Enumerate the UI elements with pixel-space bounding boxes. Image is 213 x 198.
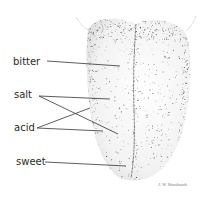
stipple-dot: [189, 135, 190, 136]
stipple-dot: [99, 27, 100, 28]
stipple-dot: [136, 22, 137, 23]
stipple-dot: [182, 148, 183, 149]
stipple-dot: [132, 49, 133, 50]
stipple-dot: [191, 170, 192, 171]
stipple-dot: [89, 31, 90, 32]
stipple-dot: [155, 23, 156, 24]
stipple-dot: [94, 36, 95, 37]
stipple-dot: [109, 81, 110, 82]
stipple-dot: [152, 49, 153, 50]
stipple-dot: [182, 155, 183, 156]
stipple-dot: [153, 39, 154, 40]
stipple-dot: [88, 68, 89, 69]
stipple-dot: [146, 117, 147, 118]
stipple-dot: [184, 168, 185, 169]
stipple-dot: [185, 71, 186, 72]
stipple-dot: [177, 168, 178, 169]
stipple-dot: [102, 69, 103, 70]
stipple-dot: [153, 54, 154, 55]
stipple-dot: [187, 101, 188, 102]
stipple-dot: [108, 122, 109, 123]
stipple-dot: [102, 121, 103, 122]
stipple-dot: [86, 177, 87, 178]
stipple-dot: [87, 118, 88, 119]
stipple-dot: [153, 37, 154, 38]
stipple-dot: [182, 84, 183, 85]
stipple-dot: [105, 68, 106, 69]
stipple-dot: [184, 152, 185, 153]
stipple-dot: [148, 64, 149, 65]
stipple-dot: [116, 151, 117, 152]
stipple-dot: [186, 116, 187, 117]
stipple-dot: [187, 149, 188, 150]
stipple-dot: [92, 88, 93, 89]
stipple-dot: [148, 34, 149, 35]
stipple-dot: [87, 30, 88, 31]
stipple-dot: [97, 103, 98, 104]
stipple-dot: [105, 19, 106, 20]
stipple-dot: [166, 148, 167, 149]
stipple-dot: [98, 144, 99, 145]
stipple-dot: [190, 18, 191, 19]
stipple-dot: [119, 23, 120, 24]
stipple-dot: [183, 92, 184, 93]
stipple-dot: [163, 42, 164, 43]
stipple-dot: [128, 29, 129, 30]
stipple-dot: [131, 28, 132, 29]
stipple-dot: [139, 36, 140, 37]
stipple-dot: [108, 60, 109, 61]
stipple-dot: [158, 128, 159, 129]
stipple-dot: [123, 140, 124, 141]
stipple-dot: [137, 88, 138, 89]
stipple-dot: [93, 34, 94, 35]
stipple-dot: [96, 128, 97, 129]
tongue-diagram: bitter salt acid sweet J. W. Wendreath: [0, 0, 213, 198]
stipple-dot: [114, 179, 115, 180]
stipple-dot: [169, 16, 170, 17]
stipple-dot: [158, 23, 159, 24]
stipple-dot: [149, 31, 150, 32]
stipple-dot: [90, 184, 91, 185]
stipple-dot: [159, 40, 160, 41]
stipple-dot: [190, 143, 191, 144]
stipple-dot: [169, 19, 170, 20]
stipple-dot: [129, 20, 130, 21]
stipple-dot: [134, 167, 135, 168]
stipple-dot: [183, 117, 184, 118]
stipple-dot: [175, 159, 176, 160]
stipple-dot: [137, 114, 138, 115]
stipple-dot: [118, 70, 119, 71]
stipple-dot: [187, 119, 188, 120]
stipple-dot: [126, 36, 127, 37]
stipple-dot: [84, 85, 85, 86]
stipple-dot: [84, 38, 85, 39]
stipple-dot: [133, 135, 134, 136]
stipple-dot: [185, 26, 186, 27]
stipple-dot: [132, 16, 133, 17]
stipple-dot: [87, 153, 88, 154]
stipple-dot: [182, 156, 183, 157]
stipple-dot: [88, 81, 89, 82]
stipple-dot: [179, 94, 180, 95]
stipple-dot: [100, 36, 101, 37]
stipple-dot: [136, 177, 137, 178]
stipple-dot: [97, 92, 98, 93]
stipple-dot: [85, 52, 86, 53]
stipple-dot: [189, 130, 190, 131]
stipple-dot: [119, 27, 120, 28]
stipple-dot: [181, 136, 182, 137]
stipple-dot: [144, 19, 145, 20]
stipple-dot: [111, 91, 112, 92]
stipple-dot: [185, 50, 186, 51]
label-acid: acid: [14, 122, 35, 133]
stipple-dot: [84, 64, 85, 65]
stipple-dot: [146, 17, 147, 18]
stipple-dot: [153, 89, 154, 90]
stipple-dot: [132, 42, 133, 43]
stipple-dot: [182, 94, 183, 95]
stipple-dot: [151, 147, 152, 148]
stipple-dot: [152, 126, 153, 127]
stipple-dot: [173, 159, 174, 160]
stipple-dot: [90, 79, 91, 80]
stipple-dot: [186, 72, 187, 73]
